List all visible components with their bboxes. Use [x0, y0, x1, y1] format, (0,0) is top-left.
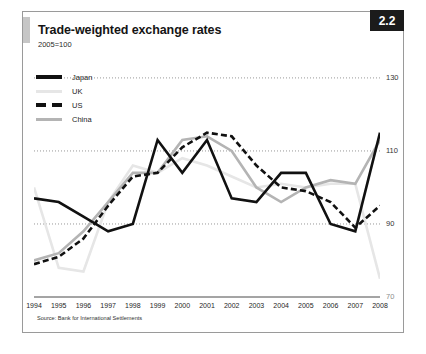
x-axis-label-2008: 2008 [372, 302, 388, 309]
x-axis-label-1994: 1994 [26, 302, 42, 309]
legend-swatch-us [36, 103, 62, 107]
y-axis-label-110: 110 [386, 146, 398, 155]
x-axis-label-1997: 1997 [100, 302, 116, 309]
legend-label: US [72, 101, 82, 110]
y-axis-label-70: 70 [386, 292, 394, 301]
x-axis-label-2001: 2001 [199, 302, 215, 309]
x-axis-label-2000: 2000 [174, 302, 190, 309]
x-axis-label-2004: 2004 [273, 302, 289, 309]
legend-swatch-china [36, 118, 62, 121]
series-line-china [34, 136, 380, 260]
x-axis-label-2007: 2007 [347, 302, 363, 309]
x-axis-label-1996: 1996 [76, 302, 92, 309]
x-axis: 1994199519961997199819992000200120022003… [34, 300, 380, 314]
status-badge: 2.2 [370, 10, 404, 31]
legend: JapanUKUSChina [36, 70, 156, 126]
legend-label: UK [72, 87, 82, 96]
x-axis-label-2002: 2002 [224, 302, 240, 309]
chart-subtitle: 2005=100 [38, 40, 72, 49]
legend-item-us: US [36, 98, 156, 112]
legend-label: China [72, 115, 92, 124]
x-axis-label-2003: 2003 [249, 302, 265, 309]
x-axis-label-2005: 2005 [298, 302, 314, 309]
accent-bar [23, 17, 30, 43]
x-axis-label-1995: 1995 [51, 302, 67, 309]
legend-item-japan: Japan [36, 70, 156, 84]
x-axis-label-1998: 1998 [125, 302, 141, 309]
series-line-us [34, 133, 380, 264]
x-axis-label-1999: 1999 [150, 302, 166, 309]
legend-swatch-uk [36, 90, 62, 93]
legend-item-china: China [36, 112, 156, 126]
source-note: Source: Bank for International Settlemen… [37, 315, 142, 321]
legend-item-uk: UK [36, 84, 156, 98]
y-axis-label-90: 90 [386, 219, 394, 228]
legend-swatch-japan [36, 75, 62, 79]
legend-label: Japan [72, 73, 92, 82]
y-axis-label-130: 130 [386, 73, 399, 82]
series-layer [34, 133, 380, 279]
chart-card: Trade-weighted exchange rates 2005=100 2… [22, 11, 404, 333]
page-title: Trade-weighted exchange rates [38, 23, 221, 37]
x-axis-label-2006: 2006 [323, 302, 339, 309]
